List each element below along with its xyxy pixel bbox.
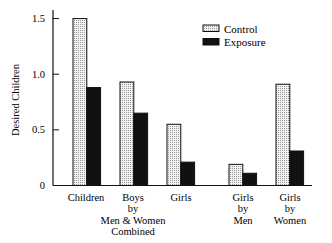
category-label: Girls	[171, 192, 192, 203]
bar-exposure	[243, 173, 257, 185]
bar-control	[229, 164, 243, 185]
category-label: Combined	[111, 226, 155, 237]
bar-exposure	[87, 88, 101, 186]
category-label: Men & Women	[101, 215, 167, 226]
category-labels: ChildrenBoysbyMen & WomenCombinedGirlsGi…	[68, 192, 307, 237]
bar-exposure	[181, 162, 195, 185]
category-label: by	[128, 203, 139, 214]
bar-chart: 00.51.01.5 Desired Children ChildrenBoys…	[0, 0, 332, 243]
y-axis-label: Desired Children	[10, 63, 21, 136]
category-label: Girls	[280, 192, 301, 203]
legend-swatch-exposure	[203, 39, 219, 46]
category-label: Children	[68, 192, 105, 203]
category-label: by	[238, 203, 249, 214]
bar-control	[276, 84, 290, 185]
category-label: Girls	[233, 192, 254, 203]
legend-label-control: Control	[224, 23, 258, 35]
y-tick-label: 1.5	[32, 13, 45, 24]
y-tick-label: 0.5	[32, 124, 45, 135]
category-label: Women	[274, 215, 307, 226]
legend: Control Exposure	[203, 23, 266, 49]
bar-control	[73, 19, 87, 186]
category-label: Men	[233, 215, 253, 226]
legend-label-exposure: Exposure	[224, 36, 266, 48]
bar-control	[120, 82, 134, 186]
bars	[73, 19, 304, 186]
bar-exposure	[290, 151, 304, 186]
bar-exposure	[134, 113, 148, 185]
category-label: Boys	[122, 192, 144, 203]
category-label: by	[285, 203, 296, 214]
bar-control	[167, 124, 181, 185]
y-tick-label: 0	[40, 180, 45, 191]
legend-swatch-control	[203, 25, 219, 32]
y-tick-label: 1.0	[32, 69, 45, 80]
